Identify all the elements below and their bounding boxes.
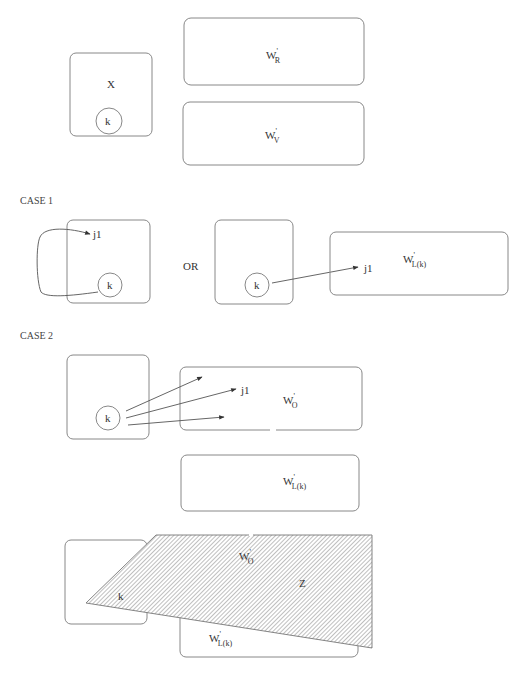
case1-label-j1: j1 (92, 228, 102, 240)
self-loop-arrow (37, 229, 98, 296)
case1-label-k: k (107, 279, 113, 291)
box-wr: W'R (184, 18, 364, 85)
box-x: X k (70, 53, 152, 136)
label-wr: W'R (266, 47, 281, 65)
case2-left-box: k (67, 355, 149, 439)
case1-label-j1-right: j1 (363, 262, 373, 274)
box-wv: W'V (183, 102, 364, 165)
label-wlk-2: W'L(k) (283, 473, 306, 491)
diagram-canvas: X k W'R W'V CASE 1 j1 k OR k j1 W'L(k) C… (0, 0, 531, 680)
or-label: OR (183, 260, 199, 272)
label-x: X (107, 78, 115, 90)
arrow-k-out-1 (126, 377, 202, 411)
label-wv: W'V (265, 127, 280, 145)
case2-label-j1: j1 (240, 384, 250, 396)
case1-mid-label-k: k (254, 279, 260, 291)
bottom-label-wlk: W'L(k) (209, 630, 232, 648)
bottom-label-k: k (118, 590, 124, 602)
arrow-k-to-j1 (272, 267, 358, 283)
case2-label-k: k (105, 412, 111, 424)
case2-arrows (126, 377, 236, 425)
case1-middle-box: k (215, 220, 358, 304)
case1-box-wl: j1 W'L(k) (330, 232, 508, 295)
label-wo: W'O (283, 392, 298, 410)
arrow-k-out-3 (128, 417, 224, 425)
label-wlk: W'L(k) (403, 251, 426, 269)
hatched-region-z (86, 535, 372, 648)
bottom-composite: k W'O Z W'L(k) (65, 535, 372, 657)
case2-box-wo: j1 W'O (180, 367, 362, 430)
case1-title: CASE 1 (20, 195, 53, 206)
case1-left-box: j1 k (37, 220, 150, 303)
label-z: Z (299, 577, 306, 589)
label-k: k (105, 115, 111, 127)
case2-box-wl: W'L(k) (181, 455, 359, 511)
case2-title: CASE 2 (20, 330, 53, 341)
